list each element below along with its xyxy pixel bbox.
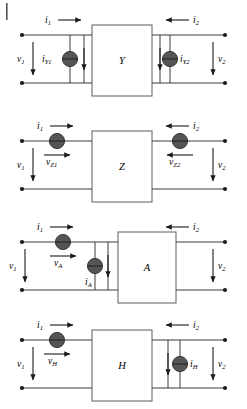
label-v2-z: v2 <box>218 160 226 171</box>
terminal-port2-top-h <box>223 338 227 342</box>
label-ih: iH <box>190 359 199 370</box>
label-i2-z: i2 <box>193 121 200 132</box>
network-box-label-h: H <box>117 360 127 371</box>
terminal-port1-bottom-h <box>20 386 24 390</box>
terminal-port1-bottom-z <box>20 187 24 191</box>
label-iy2: iY2 <box>180 54 190 65</box>
label-vh: vH <box>48 356 58 367</box>
terminal-port1-bottom-a <box>20 288 24 292</box>
terminal-port1-top-y <box>20 33 24 37</box>
diagram-z-parameters: Z i1 i2 v1 v2 vZ1 vZ2 <box>17 121 227 202</box>
label-v2-h: v2 <box>218 359 226 370</box>
label-ia: iA <box>85 277 93 288</box>
label-i1-z: i1 <box>37 121 43 132</box>
terminal-port1-top-z <box>20 139 24 143</box>
label-vz2: vZ2 <box>169 157 181 168</box>
terminal-port1-top-h <box>20 338 24 342</box>
diagram-a-parameters: A i1 i2 v1 v2 vA iA <box>9 222 227 303</box>
label-v1-y: v1 <box>17 54 25 65</box>
terminal-port2-bottom-z <box>223 187 227 191</box>
terminal-port2-bottom-y <box>223 81 227 85</box>
label-v1-h: v1 <box>17 359 25 370</box>
label-v2-a: v2 <box>218 261 226 272</box>
terminal-port2-top-a <box>223 240 227 244</box>
label-v1-a: v1 <box>9 261 17 272</box>
label-i2-h: i2 <box>193 320 200 331</box>
label-i1-y: i1 <box>45 15 51 26</box>
network-box-label-z: Z <box>119 161 125 172</box>
label-v2-y: v2 <box>218 54 226 65</box>
label-i1-h: i1 <box>37 320 43 331</box>
terminal-port2-top-y <box>223 33 227 37</box>
terminal-port1-top-a <box>20 240 24 244</box>
two-port-network-figure: Y i1 i2 v1 v2 <box>0 0 247 409</box>
label-i2-y: i2 <box>193 15 200 26</box>
network-box-label-a: A <box>143 262 151 273</box>
label-iy1: iY1 <box>42 54 52 65</box>
terminal-port2-top-z <box>223 139 227 143</box>
page-edge-mark <box>6 3 8 20</box>
terminal-port1-bottom-y <box>20 81 24 85</box>
diagram-h-parameters: H i1 i2 v1 v2 vH iH <box>17 320 227 401</box>
diagram-y-parameters: Y i1 i2 v1 v2 <box>17 15 227 96</box>
terminal-port2-bottom-a <box>223 288 227 292</box>
label-va: vA <box>54 258 63 269</box>
terminal-port2-bottom-h <box>223 386 227 390</box>
label-i2-a: i2 <box>193 222 200 233</box>
label-v1-z: v1 <box>17 160 25 171</box>
label-vz1: vZ1 <box>46 157 57 168</box>
label-i1-a: i1 <box>37 222 43 233</box>
